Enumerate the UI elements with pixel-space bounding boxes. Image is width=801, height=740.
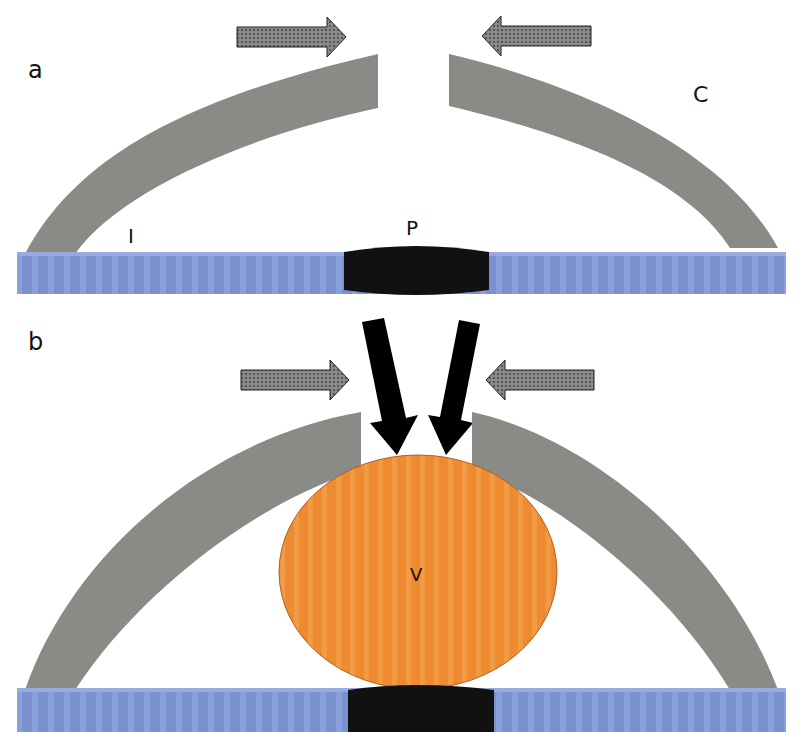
force-arrow-right-a bbox=[237, 17, 346, 57]
label-cervical: C bbox=[693, 82, 708, 107]
panel-label-a: a bbox=[28, 56, 43, 84]
left-arm-a bbox=[25, 54, 378, 254]
panel-a bbox=[17, 16, 786, 295]
force-arrow-left-b bbox=[486, 360, 594, 400]
right-arm-a bbox=[449, 54, 778, 248]
force-arrow-right-b bbox=[241, 360, 349, 400]
plate-a bbox=[344, 246, 489, 295]
label-plate: P bbox=[406, 216, 418, 240]
panel-label-b: b bbox=[28, 328, 43, 356]
force-arrow-left-a bbox=[482, 16, 591, 56]
label-vessel: V bbox=[410, 564, 422, 585]
black-arrow-left bbox=[362, 318, 418, 455]
diagram-canvas bbox=[0, 0, 801, 740]
label-incisal: I bbox=[128, 224, 134, 248]
plate-b bbox=[348, 685, 494, 732]
